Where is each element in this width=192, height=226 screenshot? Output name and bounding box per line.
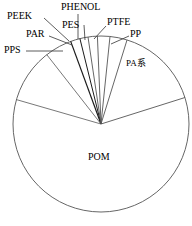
- slice-label-phenol: PHENOL: [61, 2, 100, 12]
- slice-label-pps: PPS: [4, 45, 21, 55]
- slice-label-pp: PP: [130, 29, 141, 39]
- slice-label-peek: PEEK: [7, 11, 32, 21]
- pie-chart: PEEK PHENOL PES PTFE PAR PP PPS PA系 POM: [0, 0, 192, 226]
- slice-label-pa: PA系: [126, 58, 146, 68]
- slice-label-ptfe: PTFE: [107, 17, 130, 27]
- slice-label-pes: PES: [62, 20, 79, 30]
- slice-label-par: PAR: [26, 29, 45, 39]
- slice-label-pom: POM: [88, 152, 110, 162]
